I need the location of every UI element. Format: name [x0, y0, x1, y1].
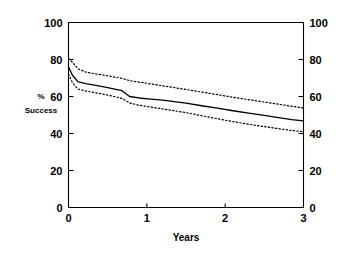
right-axis-tick-label: 80 [310, 54, 322, 66]
x-axis-title: Years [173, 232, 200, 243]
plot-frame [69, 23, 304, 208]
x-axis-tick-label: 3 [300, 212, 306, 224]
left-axis-tick-labels: 020406080100 [44, 17, 62, 214]
left-axis-tick-label: 40 [50, 128, 62, 140]
left-axis-tick-label: 80 [50, 54, 62, 66]
left-axis-tick-label: 0 [56, 202, 62, 214]
right-axis-tick-label: 20 [310, 165, 322, 177]
right-axis-tick-label: 100 [310, 17, 328, 29]
left-axis-tick-label: 20 [50, 165, 62, 177]
left-axis-tick-label: 100 [44, 17, 62, 29]
right-axis-tick-label: 40 [310, 128, 322, 140]
right-axis-tick-label: 60 [310, 91, 322, 103]
right-axis-tick-labels: 020406080100 [310, 17, 328, 214]
x-axis-tick-labels: 0123 [65, 212, 306, 224]
right-axis-tick-label: 0 [310, 202, 316, 214]
y-axis-title-line2: Success [25, 106, 58, 115]
y-axis-title-line1: % [37, 92, 44, 101]
x-axis-tick-label: 1 [144, 212, 150, 224]
chart-container: 020406080100 020406080100 0123 % Success… [0, 0, 342, 259]
x-axis-tick-label: 0 [65, 212, 71, 224]
success-over-years-line-chart: 020406080100 020406080100 0123 % Success… [0, 0, 342, 259]
x-axis-tick-label: 2 [222, 212, 228, 224]
left-axis-tick-label: 60 [50, 91, 62, 103]
